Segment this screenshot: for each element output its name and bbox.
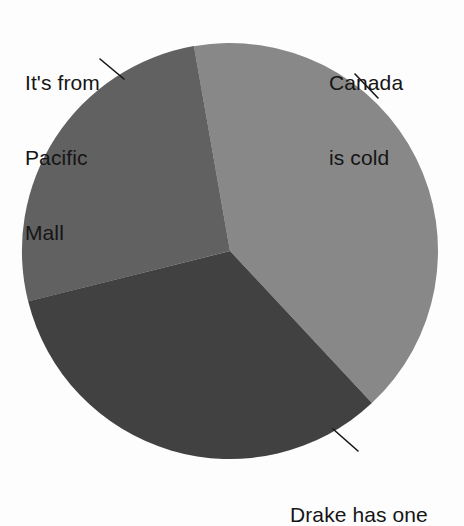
leader-line-pacific-mall bbox=[100, 59, 124, 79]
leader-line-drake-has-one bbox=[333, 429, 358, 451]
slice-label-drake-has-one: Drake has one bbox=[290, 452, 428, 526]
slice-label-its-from-pacific-mall: It's from Pacific Mall bbox=[25, 20, 100, 295]
slice-label-line: Canada bbox=[329, 70, 403, 95]
slice-label-line: Pacific bbox=[25, 145, 100, 170]
slice-label-canada-is-cold: Canada is cold bbox=[329, 20, 403, 220]
slice-label-line: Drake has one bbox=[290, 502, 428, 526]
slice-label-line: It's from bbox=[25, 70, 100, 95]
slice-label-line: is cold bbox=[329, 145, 403, 170]
slice-label-line: Mall bbox=[25, 220, 100, 245]
